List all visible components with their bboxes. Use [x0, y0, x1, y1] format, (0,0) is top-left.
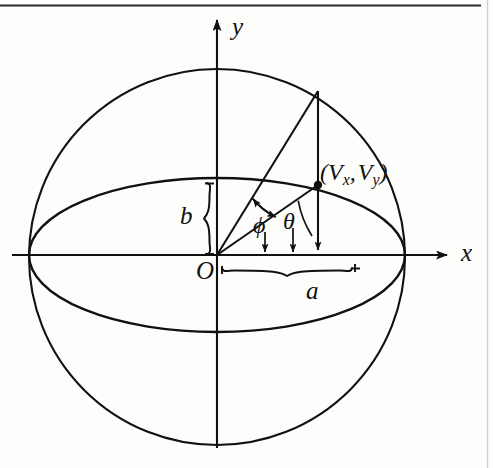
semi-minor-axis-label: b — [180, 203, 193, 228]
brace-a — [222, 268, 352, 276]
brace-b — [204, 183, 210, 254]
y-axis-label: y — [232, 14, 243, 39]
point-comma: , — [350, 159, 356, 185]
figure-container: y x O b a ϕ θ (Vx, Vy) — [0, 0, 493, 468]
angle-arc-theta — [298, 201, 312, 236]
angle-theta-label: θ — [283, 209, 295, 233]
ray-phi — [217, 91, 318, 255]
point-close-paren: ) — [379, 159, 387, 185]
angle-phi-label: ϕ — [253, 213, 265, 237]
origin-label: O — [196, 258, 214, 283]
x-axis-label: x — [461, 240, 472, 265]
velocity-point-label: (Vx, Vy) — [320, 160, 387, 188]
semi-major-axis-label: a — [306, 278, 319, 303]
point-subscript-x: x — [343, 171, 350, 188]
point-v-x: V — [328, 159, 343, 185]
sphere-diagram-svg — [0, 0, 493, 468]
point-v-y: V — [358, 159, 373, 185]
point-open-paren: ( — [320, 159, 328, 185]
